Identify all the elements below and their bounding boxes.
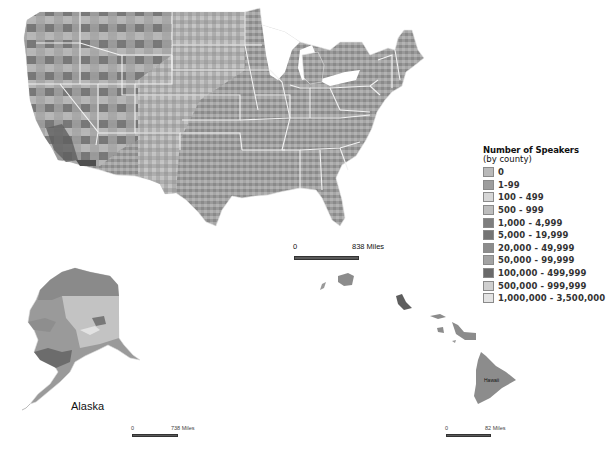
legend-label: 1,000 - 4,999	[498, 218, 563, 228]
legend-swatch	[483, 268, 494, 278]
legend-swatch	[483, 230, 494, 240]
alaska	[22, 268, 140, 410]
legend-swatch	[483, 167, 494, 177]
legend-subtitle: (by county)	[483, 155, 614, 164]
legend-label: 500 - 999	[498, 205, 544, 215]
legend-label: 5,000 - 19,999	[498, 230, 569, 240]
legend-label: 0	[498, 167, 504, 177]
legend-item: 500,000 - 999,999	[483, 279, 614, 292]
legend-item: 50,000 - 99,999	[483, 254, 614, 267]
alaska-label: Alaska	[71, 400, 104, 412]
legend-swatch	[483, 243, 494, 253]
scale-max-label: 738 Miles	[171, 425, 195, 431]
legend-item: 1,000,000 - 3,500,000	[483, 292, 614, 305]
scale-max-label: 838 Miles	[352, 242, 384, 251]
legend-swatch	[483, 281, 494, 291]
scale-bar-alaska: 0 738 Miles	[131, 425, 211, 434]
scale-zero-label: 0	[445, 425, 448, 431]
legend-item: 1,000 - 4,999	[483, 216, 614, 229]
legend-swatch	[483, 180, 494, 190]
legend-item: 0	[483, 166, 614, 179]
legend-item: 5,000 - 19,999	[483, 229, 614, 242]
legend-swatch	[483, 293, 494, 303]
legend-item: 100,000 - 499,999	[483, 267, 614, 280]
legend-swatch	[483, 192, 494, 202]
scale-zero-label: 0	[131, 425, 134, 431]
contiguous-us	[24, 8, 424, 226]
scale-bar-graphic	[132, 434, 178, 437]
hawaii-label: Hawaii	[484, 377, 499, 383]
scale-bar-contiguous: 0 838 Miles	[293, 242, 393, 251]
legend-swatch	[483, 218, 494, 228]
legend-label: 500,000 - 999,999	[498, 281, 587, 291]
scale-max-label: 82 Miles	[485, 425, 505, 431]
legend-swatch	[483, 255, 494, 265]
legend-item: 1-99	[483, 179, 614, 192]
scale-zero-label: 0	[293, 242, 297, 251]
legend-label: 100,000 - 499,999	[498, 268, 587, 278]
legend-label: 20,000 - 49,999	[498, 243, 575, 253]
legend-swatch	[483, 205, 494, 215]
legend-label: 1-99	[498, 180, 520, 190]
legend-label: 100 - 499	[498, 192, 544, 202]
legend-item: 500 - 999	[483, 204, 614, 217]
legend-label: 50,000 - 99,999	[498, 255, 575, 265]
legend-item: 100 - 499	[483, 191, 614, 204]
legend-item: 20,000 - 49,999	[483, 242, 614, 255]
scale-bar-graphic	[446, 434, 491, 437]
legend: Number of Speakers (by county) 0 1-99 10…	[483, 146, 614, 305]
scale-bar-graphic	[294, 256, 359, 260]
legend-label: 1,000,000 - 3,500,000	[498, 293, 605, 303]
scale-bar-hawaii: 0 82 Miles	[445, 425, 525, 434]
